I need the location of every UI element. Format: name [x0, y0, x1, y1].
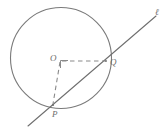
radius-segment-op	[53, 62, 60, 104]
geometry-figure: O Q P ℓ	[0, 0, 166, 136]
right-angle-marker	[61, 61, 69, 69]
point-label-q: Q	[110, 58, 117, 67]
secant-line	[28, 16, 156, 126]
circle-shape	[11, 8, 112, 109]
geometry-canvas	[0, 0, 166, 136]
point-label-o: O	[50, 54, 57, 63]
point-marker-q	[105, 60, 107, 62]
line-label-ell: ℓ	[155, 8, 159, 17]
point-label-p: P	[52, 110, 58, 119]
point-marker-p	[52, 104, 54, 106]
